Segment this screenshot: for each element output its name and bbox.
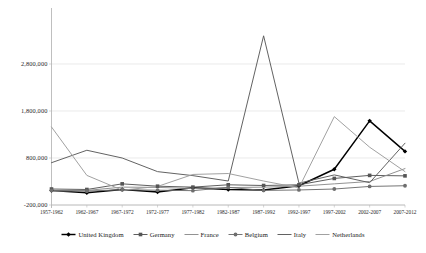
marker-point bbox=[403, 184, 407, 188]
legend-label: Belgium bbox=[245, 231, 268, 238]
legend-label: United Kingdom bbox=[78, 231, 123, 238]
x-tick-label: 1977-1982 bbox=[178, 209, 208, 215]
marker-point bbox=[156, 188, 160, 192]
x-tick-label: 2002-2007 bbox=[355, 209, 385, 215]
legend-swatch-none-icon bbox=[277, 230, 292, 239]
legend-label: Netherlands bbox=[332, 231, 364, 238]
legend-item-germany[interactable]: Germany bbox=[133, 230, 175, 239]
legend-label: France bbox=[201, 231, 219, 238]
line-chart: -200,000800,0001,800,0002,800,000 1957-1… bbox=[0, 0, 426, 253]
marker-point bbox=[333, 177, 337, 181]
legend-swatch-none-icon bbox=[184, 230, 199, 239]
marker-point bbox=[368, 174, 372, 178]
marker-point bbox=[156, 184, 160, 188]
marker-point bbox=[191, 185, 195, 189]
x-tick-label: 2007-2012 bbox=[390, 209, 420, 215]
series-line-italy bbox=[52, 36, 406, 183]
x-tick-label: 1972-1977 bbox=[143, 209, 173, 215]
legend-swatch-circle-icon bbox=[228, 230, 243, 239]
y-tick-label: 1,800,000 bbox=[21, 107, 47, 114]
y-tick-label: 800,000 bbox=[26, 154, 47, 161]
marker-point bbox=[403, 174, 407, 178]
marker-point bbox=[120, 188, 124, 192]
marker-point bbox=[191, 189, 195, 193]
legend-item-united-kingdom[interactable]: United Kingdom bbox=[61, 230, 123, 239]
x-tick-label: 1957-1962 bbox=[37, 209, 67, 215]
legend-label: Germany bbox=[150, 231, 175, 238]
series-markers bbox=[49, 119, 407, 195]
legend-item-italy[interactable]: Italy bbox=[277, 230, 306, 239]
marker-point bbox=[262, 189, 266, 193]
marker-point bbox=[332, 187, 336, 191]
axis-lines bbox=[49, 8, 405, 208]
legend-swatch-diamond-icon bbox=[61, 230, 76, 239]
x-tick-label: 1982-1987 bbox=[213, 209, 243, 215]
legend-label: Italy bbox=[294, 231, 306, 238]
marker-point bbox=[297, 183, 301, 187]
plot-area bbox=[0, 0, 426, 253]
chart-legend: United KingdomGermanyFranceBelgiumItalyN… bbox=[0, 230, 426, 239]
marker-point bbox=[297, 188, 301, 192]
y-tick-label: -200,000 bbox=[24, 201, 48, 208]
legend-swatch-square-icon bbox=[133, 230, 148, 239]
x-tick-label: 1962-1967 bbox=[72, 209, 102, 215]
legend-item-netherlands[interactable]: Netherlands bbox=[315, 230, 364, 239]
marker-point bbox=[120, 182, 124, 186]
marker-point bbox=[226, 185, 230, 189]
x-tick-label: 1987-1992 bbox=[249, 209, 279, 215]
marker-point bbox=[262, 184, 266, 188]
legend-item-belgium[interactable]: Belgium bbox=[228, 230, 268, 239]
marker-point bbox=[50, 189, 54, 193]
marker-point bbox=[85, 189, 89, 193]
y-tick-label: 2,800,000 bbox=[21, 60, 47, 67]
marker-point bbox=[368, 185, 372, 189]
legend-item-france[interactable]: France bbox=[184, 230, 219, 239]
legend-swatch-none-icon bbox=[315, 230, 330, 239]
x-tick-label: 1997-2002 bbox=[319, 209, 349, 215]
x-tick-label: 1992-1997 bbox=[284, 209, 314, 215]
x-tick-label: 1967-1972 bbox=[107, 209, 137, 215]
series-lines bbox=[52, 36, 406, 193]
